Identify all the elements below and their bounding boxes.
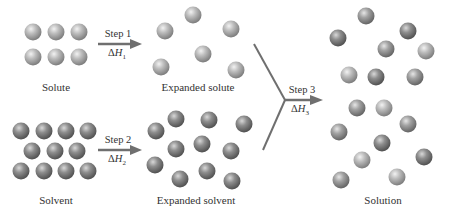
step1-enthalpy: ΔH1 xyxy=(108,47,126,61)
diagram-graphics xyxy=(0,0,457,220)
expanded-solvent-label: Expanded solvent xyxy=(157,194,236,206)
step2-label: Step 2 xyxy=(105,134,132,145)
solvent-label: Solvent xyxy=(39,194,73,206)
solute-label: Solute xyxy=(42,81,70,93)
step3-enthalpy: ΔH3 xyxy=(291,103,309,117)
expanded-solute-label: Expanded solute xyxy=(161,81,234,93)
solvent-cluster xyxy=(13,123,97,180)
solution-formation-diagram: Solute Expanded solute Solvent Expanded … xyxy=(0,0,457,220)
solution-cluster xyxy=(330,8,435,189)
step2-enthalpy: ΔH2 xyxy=(108,153,126,167)
expanded-solvent-cluster xyxy=(147,111,253,190)
solution-label: Solution xyxy=(364,194,401,206)
solute-cluster xyxy=(25,24,88,66)
step3-arrow xyxy=(254,44,323,150)
step1-label: Step 1 xyxy=(105,28,132,39)
expanded-solute-cluster xyxy=(153,7,245,79)
step3-label: Step 3 xyxy=(289,84,316,95)
